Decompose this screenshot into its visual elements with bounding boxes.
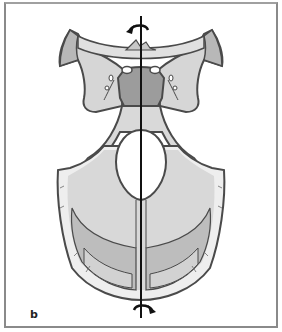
- right-facet: [150, 67, 160, 74]
- panel-label: b: [30, 308, 38, 321]
- left-foramen-2: [105, 86, 109, 90]
- bottom-rotation-arrow-icon: [134, 305, 156, 314]
- right-foramen-2: [173, 86, 177, 90]
- vertebra-illustration: [0, 0, 282, 332]
- left-foramen-1: [109, 75, 113, 81]
- left-facet: [122, 67, 132, 74]
- right-foramen-1: [169, 75, 173, 81]
- top-rotation-arrow-icon: [126, 25, 148, 34]
